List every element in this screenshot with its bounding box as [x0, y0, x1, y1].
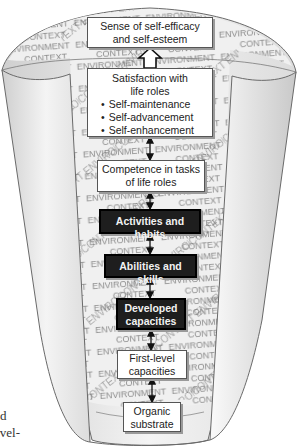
page-text-fragment: d evel-	[0, 407, 20, 441]
box-label: First-level	[118, 352, 186, 365]
box-developed: Developed capacities	[116, 298, 186, 330]
box-label: of life roles	[98, 176, 204, 189]
text-line: evel-	[0, 424, 20, 441]
box-label: Sense of self-efficacy	[88, 20, 212, 33]
box-label: and self-esteem	[88, 33, 212, 46]
box-activities: Activities and habits	[99, 209, 201, 234]
box-label: life roles	[88, 85, 212, 98]
box-label: Organic	[124, 405, 180, 418]
box-competence: Competence in tasks of life roles	[97, 160, 205, 192]
box-label: Abilities and skills	[106, 260, 195, 286]
box-organic: Organic substrate	[123, 402, 181, 432]
box-first-level: First-level capacities	[117, 350, 187, 379]
box-satisfaction: Satisfaction with life roles Self-mainte…	[87, 68, 213, 137]
box-label: Satisfaction with	[88, 72, 212, 85]
bullet-item: Self-advancement	[88, 111, 212, 124]
box-label: Developed	[118, 302, 184, 315]
box-label: Activities and habits	[101, 215, 199, 241]
bullet-item: Self-maintenance	[88, 98, 212, 111]
funnel-diagram: ENVIRONMENT CONTEXT CONTEXT ENVIRONMENT	[0, 0, 297, 447]
box-label: substrate	[124, 418, 180, 431]
box-label: capacities	[118, 315, 184, 328]
box-self-efficacy: Sense of self-efficacy and self-esteem	[87, 17, 213, 48]
box-abilities: Abilities and skills	[104, 254, 197, 278]
bullet-item: Self-enhancement	[88, 124, 212, 137]
text-line: d	[0, 407, 20, 424]
box-label: capacities	[118, 365, 186, 378]
box-label: Competence in tasks	[98, 163, 204, 176]
